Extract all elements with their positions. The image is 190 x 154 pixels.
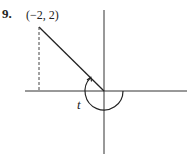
point-label: (−2, 2) <box>26 8 59 22</box>
terminal-side <box>39 27 104 91</box>
problem-number: 9. <box>2 6 12 21</box>
angle-label: t <box>77 97 81 112</box>
diagram: 9. (−2, 2) t <box>0 0 190 154</box>
